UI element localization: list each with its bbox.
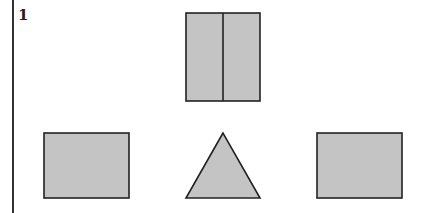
divided-rectangle-top (186, 13, 260, 101)
middle-triangle (186, 133, 260, 198)
shapes-figure (0, 0, 425, 213)
right-rectangle (317, 133, 402, 198)
left-rectangle (44, 133, 129, 198)
